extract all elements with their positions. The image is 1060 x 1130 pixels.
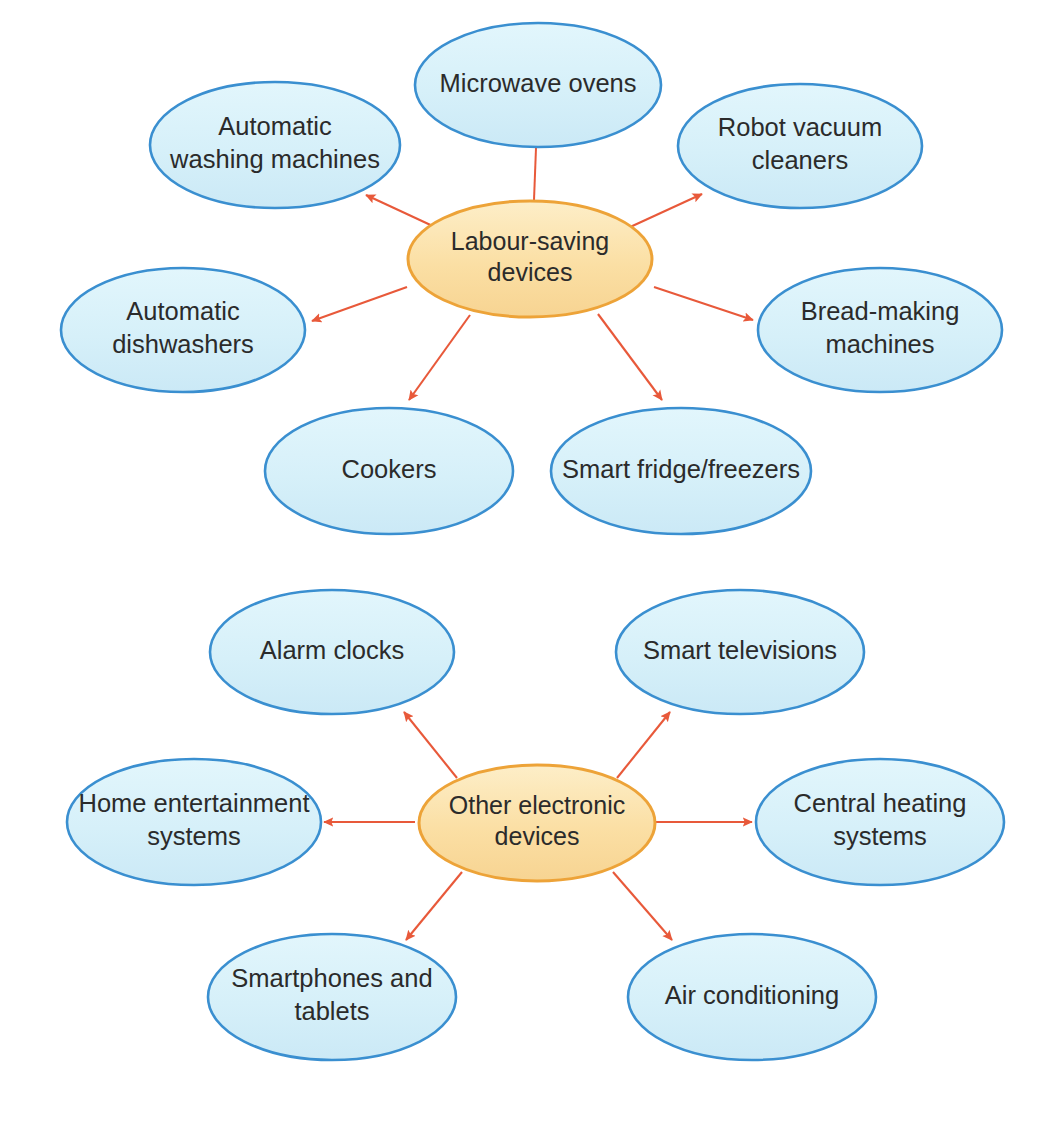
connector-arrow-automatic-washing-machines xyxy=(366,195,437,228)
node-cookers[interactable]: Cookers xyxy=(265,408,513,534)
center-node-labour-saving-devices[interactable]: Labour-savingdevices xyxy=(408,201,652,317)
node-label-text: Automatic xyxy=(126,297,240,325)
connector-arrow-smartphones-and-tablets xyxy=(406,872,462,940)
node-label-text: Smart televisions xyxy=(643,636,837,664)
node-label-text: Cookers xyxy=(342,455,437,483)
connector-arrow-cookers xyxy=(409,315,470,400)
node-label-text: Central heating xyxy=(794,789,967,817)
diagram-canvas: Microwave ovensAutomaticwashing machines… xyxy=(0,0,1060,1130)
node-alarm-clocks[interactable]: Alarm clocks xyxy=(210,590,454,714)
node-label-text: dishwashers xyxy=(112,330,254,358)
node-label-text: Home entertainment xyxy=(78,789,309,817)
node-bread-making-machines[interactable]: Bread-makingmachines xyxy=(758,268,1002,392)
node-label-text: Labour-saving xyxy=(451,227,609,255)
node-microwave-ovens[interactable]: Microwave ovens xyxy=(415,23,661,147)
node-label-text: cleaners xyxy=(752,146,848,174)
node-label-text: devices xyxy=(488,258,573,286)
spider-diagram-other-electronic-devices: Alarm clocksSmart televisionsHome entert… xyxy=(67,590,1004,1060)
node-label-text: Smart fridge/freezers xyxy=(562,455,800,483)
node-smart-televisions[interactable]: Smart televisions xyxy=(616,590,864,714)
spider-diagram-labour-saving-devices: Microwave ovensAutomaticwashing machines… xyxy=(61,23,1002,534)
node-label-text: tablets xyxy=(294,997,369,1025)
connector-arrow-alarm-clocks xyxy=(404,712,457,778)
node-label-text: Smartphones and xyxy=(231,964,432,992)
node-home-entertainment-systems[interactable]: Home entertainmentsystems xyxy=(67,759,321,885)
node-label-text: Robot vacuum xyxy=(718,113,882,141)
node-label-text: Automatic xyxy=(218,112,332,140)
node-label-text: Alarm clocks xyxy=(260,636,405,664)
node-label-text: systems xyxy=(147,822,241,850)
node-label-text: systems xyxy=(833,822,927,850)
node-central-heating-systems[interactable]: Central heatingsystems xyxy=(756,759,1004,885)
node-label-text: Microwave ovens xyxy=(440,69,637,97)
connector-arrow-automatic-dishwashers xyxy=(312,287,407,321)
connector-arrow-microwave-ovens xyxy=(534,148,536,200)
node-label-text: Air conditioning xyxy=(665,981,839,1009)
node-label-text: machines xyxy=(825,330,934,358)
node-air-conditioning[interactable]: Air conditioning xyxy=(628,934,876,1060)
node-label-text: washing machines xyxy=(169,145,380,173)
connector-arrow-robot-vacuum-cleaners xyxy=(628,194,702,228)
node-label-text: devices xyxy=(495,822,580,850)
spider-diagrams-svg: Microwave ovensAutomaticwashing machines… xyxy=(0,0,1060,1130)
connector-arrow-bread-making-machines xyxy=(654,287,753,320)
node-automatic-washing-machines[interactable]: Automaticwashing machines xyxy=(150,82,400,208)
node-robot-vacuum-cleaners[interactable]: Robot vacuumcleaners xyxy=(678,84,922,208)
node-label-text: Bread-making xyxy=(801,297,960,325)
connector-arrow-smart-fridge-freezers xyxy=(598,314,662,400)
node-smart-fridge-freezers[interactable]: Smart fridge/freezers xyxy=(551,408,811,534)
node-automatic-dishwashers[interactable]: Automaticdishwashers xyxy=(61,268,305,392)
connector-arrow-air-conditioning xyxy=(613,872,672,940)
node-smartphones-and-tablets[interactable]: Smartphones andtablets xyxy=(208,934,456,1060)
node-label-text: Other electronic xyxy=(449,791,625,819)
center-node-other-electronic-devices[interactable]: Other electronicdevices xyxy=(419,765,655,881)
connector-arrow-smart-televisions xyxy=(617,712,670,778)
